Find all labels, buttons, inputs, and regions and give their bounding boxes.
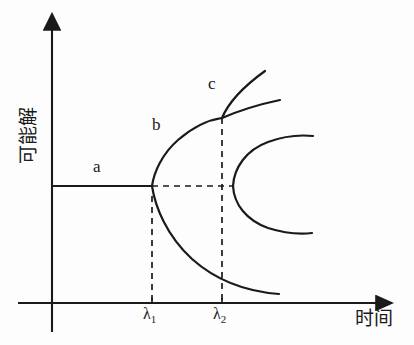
- branch-label-a: a: [93, 157, 101, 177]
- x-tick-label-lambda-1: λ1: [143, 305, 156, 325]
- x-tick-label-lambda-2: λ2: [213, 305, 226, 325]
- x-axis-label: 时间: [355, 303, 393, 330]
- second-pitchfork-lower: [233, 186, 312, 233]
- branch-lower-from-lambda1: [152, 186, 279, 294]
- second-pitchfork-upper: [233, 136, 313, 186]
- lambda-1-subscript: 1: [151, 313, 157, 325]
- lambda-1-symbol: λ: [143, 305, 151, 322]
- y-axis-label: 可能解: [13, 96, 40, 176]
- branch-label-c: c: [208, 74, 216, 94]
- branch-label-b: b: [152, 115, 161, 135]
- branch-b-upper: [152, 118, 222, 186]
- lambda-2-subscript: 2: [221, 313, 227, 325]
- bifurcation-diagram: [0, 0, 414, 345]
- lambda-2-symbol: λ: [213, 305, 221, 322]
